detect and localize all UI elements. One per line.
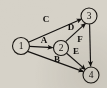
node-4-label: 4 (89, 70, 94, 80)
node-4[interactable]: 4 (83, 67, 99, 83)
edge-label-A: A (41, 35, 48, 45)
node-3-label: 3 (87, 11, 92, 21)
edge-label-F: F (77, 34, 83, 44)
node-3[interactable]: 3 (81, 8, 97, 24)
edge-F-line (90, 24, 91, 66)
node-1[interactable]: 1 (13, 38, 30, 55)
node-2-label: 2 (59, 43, 64, 53)
edge-label-C: C (43, 14, 50, 24)
edge-label-B: B (54, 54, 60, 64)
edge-A-line (30, 46, 53, 47)
directed-graph: 1 2 3 4 C A B D F E (0, 0, 107, 88)
node-1-label: 1 (19, 41, 24, 51)
edge-label-D: D (68, 22, 75, 32)
diagram-canvas: 1 2 3 4 C A B D F E (0, 0, 107, 88)
edge-label-E: E (73, 46, 79, 56)
